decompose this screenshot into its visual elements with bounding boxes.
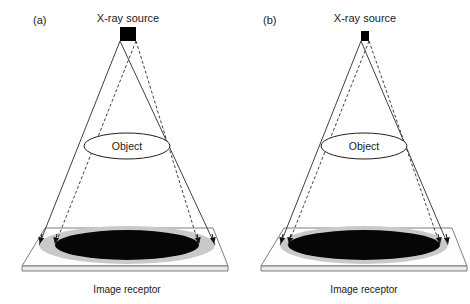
panel-b-object-label: Object	[349, 140, 379, 152]
panel-a-receptor-label: Image receptor	[93, 284, 161, 295]
panel-b-focal-spot	[361, 31, 369, 41]
panel-a-label: (a)	[33, 14, 46, 26]
xray-geometry-figure: (a) X-ray source Object I	[0, 0, 470, 304]
panel-a-object-label: Object	[112, 140, 142, 152]
panel-a-source-label: X-ray source	[97, 12, 159, 24]
panel-b-source-label: X-ray source	[334, 12, 396, 24]
panel-a-receptor-front-edge	[22, 266, 228, 271]
figure-canvas: (a) X-ray source Object I	[0, 0, 470, 304]
panel-a-umbra	[55, 230, 199, 260]
panel-a-focal-spot	[120, 27, 136, 41]
panel-b-umbra	[288, 230, 440, 260]
panel-b-receptor-front-edge	[261, 266, 467, 271]
panel-b-label: (b)	[263, 14, 276, 26]
panel-b-receptor-label: Image receptor	[330, 284, 398, 295]
